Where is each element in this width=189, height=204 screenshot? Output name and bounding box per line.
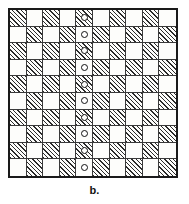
grid-cell [110,76,127,93]
grid-cell [60,126,77,143]
grid-cell [126,93,143,110]
grid-cell [76,110,93,127]
grid-cell [10,60,27,77]
grid-cell [143,110,160,127]
checkerboard [8,8,178,178]
grid-cell [159,159,176,176]
grid-cell [76,43,93,60]
grid-cell [93,76,110,93]
grid-cell [43,126,60,143]
grid-cell [43,60,60,77]
grid-cell [43,159,60,176]
grid-cell [27,60,44,77]
grid-cell [10,110,27,127]
grid-cell [60,93,77,110]
circle-marker-icon [81,130,88,137]
grid-cell [10,159,27,176]
grid-cell [159,27,176,44]
grid-cell [159,76,176,93]
grid-cell [126,27,143,44]
grid-cell [76,143,93,160]
circle-marker-icon [81,114,88,121]
grid-cell [110,159,127,176]
grid-cell [27,10,44,27]
grid-cell [143,126,160,143]
grid-cell [60,143,77,160]
grid-cell [27,43,44,60]
grid-cell [76,76,93,93]
circle-marker-icon [81,164,88,171]
grid-cell [110,60,127,77]
circle-marker-icon [81,14,88,21]
grid-cell [143,43,160,60]
grid-cell [143,60,160,77]
grid-cell [159,43,176,60]
grid-cell [93,93,110,110]
grid-cell [126,143,143,160]
grid-cell [43,43,60,60]
grid-cell [76,60,93,77]
circle-marker-icon [81,97,88,104]
grid-cell [27,159,44,176]
grid-cell [143,27,160,44]
grid-cell [143,159,160,176]
grid-cell [76,27,93,44]
grid-cell [159,60,176,77]
grid-cell [27,76,44,93]
grid-cell [60,110,77,127]
grid-cell [60,60,77,77]
grid-cell [60,43,77,60]
grid-cell [110,126,127,143]
grid-cell [93,43,110,60]
figure-panel: b. [0,0,189,204]
grid-cell [10,93,27,110]
grid-cell [93,27,110,44]
grid-cell [76,159,93,176]
circle-marker-icon [81,64,88,71]
grid-cell [126,110,143,127]
grid-cell [143,93,160,110]
grid-cell [10,27,27,44]
grid-cell [110,93,127,110]
grid-cell [159,93,176,110]
grid-cell [10,143,27,160]
grid-cell [93,60,110,77]
grid-cell [10,126,27,143]
grid-cell [27,93,44,110]
grid-cell [110,27,127,44]
grid-cell [10,76,27,93]
grid-cell [126,76,143,93]
grid-cell [110,43,127,60]
circle-marker-icon [81,31,88,38]
grid-cell [43,76,60,93]
grid-cell [43,93,60,110]
grid-cell [126,60,143,77]
circle-marker-icon [81,81,88,88]
grid-cell [110,110,127,127]
grid-cell [27,143,44,160]
grid-cell [159,143,176,160]
grid-cell [93,126,110,143]
grid-cell [159,10,176,27]
grid-cell [126,43,143,60]
grid-cell [43,110,60,127]
grid-cell [10,43,27,60]
grid-cell [110,10,127,27]
grid-cell [159,110,176,127]
grid-cell [143,76,160,93]
grid-cells-container [10,10,176,176]
grid-cell [110,143,127,160]
grid-cell [76,126,93,143]
grid-cell [126,10,143,27]
grid-cell [60,76,77,93]
grid-cell [93,159,110,176]
grid-cell [143,143,160,160]
grid-cell [93,10,110,27]
grid-cell [76,93,93,110]
grid-cell [43,27,60,44]
grid-cell [143,10,160,27]
grid-cell [10,10,27,27]
grid-cell [60,10,77,27]
grid-cell [93,143,110,160]
grid-cell [93,110,110,127]
